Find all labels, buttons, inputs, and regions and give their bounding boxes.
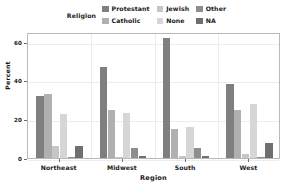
bar-midwest-catholic[interactable]: [108, 110, 115, 158]
x-axis-tick-mark: [59, 159, 60, 162]
bar-midwest-none[interactable]: [123, 113, 130, 158]
y-axis-tick-label: 40: [14, 78, 22, 84]
legend-swatch-icon: [157, 18, 164, 25]
x-axis-tick-mark: [122, 159, 123, 162]
legend-item-label: Catholic: [112, 18, 141, 24]
legend-swatch-icon: [102, 6, 109, 13]
legend-swatch-icon: [196, 6, 203, 13]
bar-midwest-jewish[interactable]: [115, 157, 122, 158]
y-axis-label: Percent: [4, 53, 11, 99]
bar-west-na[interactable]: [265, 143, 272, 159]
bar-west-catholic[interactable]: [234, 110, 241, 158]
bar-group-south: [155, 34, 218, 158]
y-axis-tick-mark: [24, 81, 27, 82]
legend-item-protestant[interactable]: Protestant: [102, 3, 150, 15]
legend-swatch-icon: [196, 18, 203, 25]
legend-item-none[interactable]: None: [157, 15, 190, 27]
x-axis-tick-label-west: West: [239, 164, 257, 171]
y-axis-tick-label: 60: [14, 40, 22, 46]
bar-south-na[interactable]: [202, 156, 209, 158]
legend-item-jewish[interactable]: Jewish: [157, 3, 190, 15]
bar-series-container: [28, 34, 279, 158]
bar-northeast-na[interactable]: [75, 146, 82, 158]
bar-west-jewish[interactable]: [242, 154, 249, 158]
bar-west-other[interactable]: [257, 157, 264, 158]
x-axis-tick-label-northeast: Northeast: [41, 164, 77, 171]
bar-group-west: [218, 34, 281, 158]
legend-item-other[interactable]: Other: [196, 3, 226, 15]
y-axis-tick-mark: [24, 120, 27, 121]
bar-west-none[interactable]: [250, 104, 257, 158]
x-axis-tick-mark: [248, 159, 249, 162]
legend-entries: ProtestantJewishOtherCatholicNoneNA: [102, 3, 226, 27]
bar-midwest-other[interactable]: [131, 148, 138, 158]
plot-area: [27, 33, 280, 159]
bar-west-protestant[interactable]: [226, 84, 233, 158]
bar-midwest-protestant[interactable]: [100, 67, 107, 158]
legend-item-label: NA: [206, 18, 216, 24]
chart-figure: Religion ProtestantJewishOtherCatholicNo…: [0, 0, 287, 190]
bar-northeast-catholic[interactable]: [44, 94, 51, 158]
bar-south-jewish[interactable]: [179, 156, 186, 158]
legend-item-label: Protestant: [112, 6, 150, 12]
legend-swatch-icon: [157, 6, 164, 13]
bar-south-catholic[interactable]: [171, 129, 178, 158]
bar-south-protestant[interactable]: [163, 38, 170, 158]
x-axis: NortheastMidwestSouthWest: [27, 159, 280, 173]
x-axis-tick-label-south: South: [175, 164, 196, 171]
x-axis-tick-mark: [185, 159, 186, 162]
legend-item-label: Other: [206, 6, 226, 12]
bar-northeast-protestant[interactable]: [36, 96, 43, 158]
bar-northeast-other[interactable]: [68, 157, 75, 158]
x-axis-tick-label-midwest: Midwest: [107, 164, 137, 171]
legend: Religion ProtestantJewishOtherCatholicNo…: [62, 2, 284, 28]
bar-midwest-na[interactable]: [139, 156, 146, 158]
y-axis-tick-label: 20: [14, 117, 22, 123]
legend-title: Religion: [62, 12, 102, 19]
y-axis-tick-label: 0: [18, 156, 22, 162]
y-axis-tick-mark: [24, 43, 27, 44]
legend-item-na[interactable]: NA: [196, 15, 226, 27]
bar-south-other[interactable]: [194, 148, 201, 158]
bar-northeast-jewish[interactable]: [52, 146, 59, 158]
bar-group-midwest: [91, 34, 154, 158]
legend-item-catholic[interactable]: Catholic: [102, 15, 150, 27]
bar-south-none[interactable]: [186, 127, 193, 158]
legend-item-label: Jewish: [166, 6, 189, 12]
bar-group-northeast: [28, 34, 91, 158]
x-axis-label: Region: [27, 174, 280, 182]
legend-swatch-icon: [102, 18, 109, 25]
legend-item-label: None: [166, 18, 184, 24]
bar-northeast-none[interactable]: [60, 114, 67, 158]
